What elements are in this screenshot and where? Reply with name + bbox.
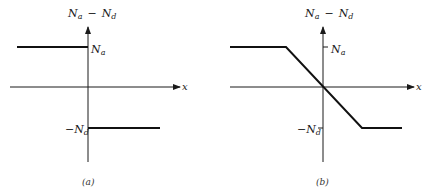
panel-b-x-axis-label: x bbox=[416, 81, 422, 92]
panel-b-caption: (b) bbox=[316, 177, 329, 187]
panel-a-caption: (a) bbox=[82, 177, 95, 187]
panel-a-upper-level-label: Na bbox=[90, 43, 106, 57]
panel-b-upper-level-label: Na bbox=[330, 43, 346, 57]
panel-a: Na−Nd Na −Nd x (a) bbox=[10, 7, 188, 187]
panel-a-y-axis-label: Na−Nd bbox=[67, 7, 116, 21]
panel-a-x-axis-label: x bbox=[182, 81, 188, 92]
panel-b-y-axis-label: Na−Nd bbox=[304, 7, 353, 21]
panel-a-lower-level-label: −Nd bbox=[65, 123, 89, 137]
panel-b: Na−Nd Na −Nd x (b) bbox=[230, 7, 422, 187]
panel-b-lower-level-label: −Nd bbox=[297, 123, 321, 137]
junction-profile-diagram: Na−Nd Na −Nd x (a) Na−Nd Na bbox=[0, 0, 422, 192]
